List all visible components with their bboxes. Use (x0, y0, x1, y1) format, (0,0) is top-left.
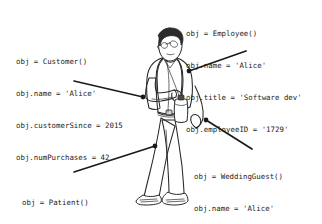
figure-ear (158, 45, 160, 49)
customer-annotation: obj = Customer() obj.name = 'Alice' obj.… (16, 36, 123, 184)
figure-glasses-bridge (158, 43, 170, 46)
figure-belt-lower (158, 115, 178, 117)
patient-annotation: obj = Patient() obj.name = 'Alice' obj.b… (22, 177, 173, 224)
figure-shirt-placket (166, 59, 169, 112)
figure-hair (159, 28, 183, 46)
employee-annotation: obj = Employee() obj.name = 'Alice' obj.… (186, 8, 302, 156)
code-line: obj.name = 'Alice' (186, 61, 302, 72)
code-line: obj.name = 'Alice' (194, 204, 292, 215)
figure-front-hand (172, 90, 182, 101)
figure-glasses-right-lens (170, 41, 178, 47)
code-line: obj.numPurchases = 42 (16, 153, 123, 164)
weddingguest-annotation: obj = WeddingGuest() obj.name = 'Alice' … (194, 151, 292, 224)
figure-belt (158, 112, 178, 114)
figure-hair-fringe (158, 28, 171, 38)
code-line: obj = Customer() (16, 57, 123, 68)
figure-collar (163, 58, 177, 68)
figure-jacket-left (147, 58, 163, 110)
figure-shirt (156, 58, 183, 115)
code-line: obj = Employee() (186, 29, 302, 40)
figure-front-arm (146, 78, 177, 101)
code-line: obj.title = 'Software dev' (186, 93, 302, 104)
figure-sleeve-cuff (152, 97, 172, 99)
code-line: obj.employeeID = '1729' (186, 125, 302, 136)
figure-neck (165, 49, 176, 62)
code-line: obj.name = 'Alice' (16, 89, 123, 100)
code-line: obj = Patient() (22, 198, 173, 209)
figure-bag-strap (165, 60, 181, 108)
figure-head (159, 30, 182, 61)
code-line: obj.customerSince = 2015 (16, 121, 123, 132)
figure-trouser-crease (166, 130, 167, 158)
figure-glasses-left-lens (161, 43, 168, 49)
code-line: obj = WeddingGuest() (194, 172, 292, 183)
figure-belt-buckle (166, 110, 172, 115)
diagram-canvas: obj = Employee() obj.name = 'Alice' obj.… (0, 0, 322, 224)
figure-bag-clasp (178, 95, 184, 100)
figure-mouth (167, 54, 174, 55)
